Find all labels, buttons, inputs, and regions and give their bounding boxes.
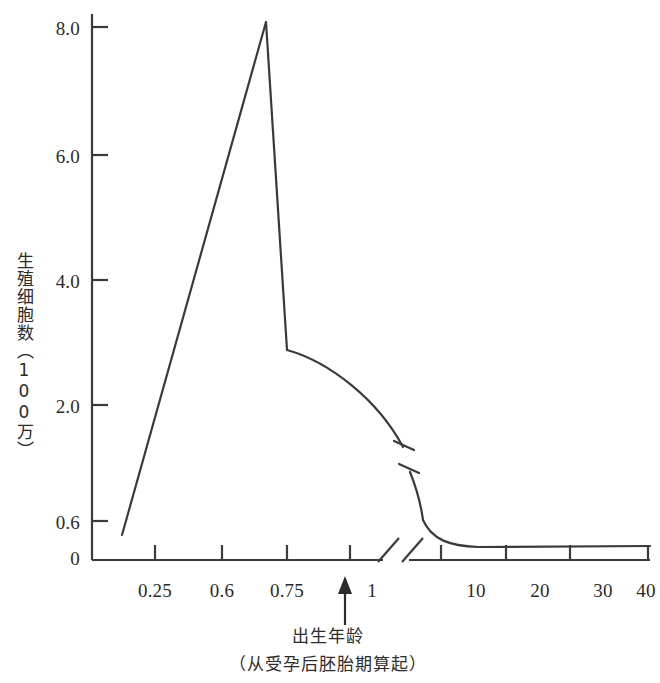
curve-segment-decline-upper	[287, 350, 403, 447]
x-axis-break-slash-1	[378, 538, 399, 562]
x-axis-caption: 出生年龄 （从受孕后胚胎期算起）	[0, 622, 655, 678]
x-axis-break-slash-2	[402, 538, 423, 562]
x-axis-caption-line-2: （从受孕后胚胎期算起）	[0, 650, 655, 678]
curve-segment-steep-fall	[266, 22, 287, 350]
curve-segment-plateau-bend	[423, 520, 478, 547]
x-axis-caption-line-1: 出生年龄	[0, 622, 655, 650]
birth-age-arrow-head	[338, 576, 352, 594]
curve-break-hatch-1	[394, 441, 414, 450]
curve-segment-plateau	[478, 546, 650, 547]
birth-age-arrow-icon	[338, 576, 352, 625]
curve-segment-rise	[122, 22, 266, 535]
curve-segment-decline-lower	[410, 472, 423, 520]
